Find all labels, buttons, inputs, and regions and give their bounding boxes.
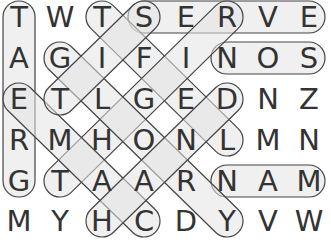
grid-cell-r2-c0[interactable]: E (0, 79, 39, 119)
grid-cell-r4-c2[interactable]: A (82, 161, 122, 201)
grid-cell-r5-c0[interactable]: M (0, 201, 39, 241)
grid-cell-r1-c2[interactable]: I (82, 38, 122, 78)
grid-cell-r0-c5[interactable]: R (207, 0, 247, 37)
grid-cell-r5-c5[interactable]: Y (207, 201, 247, 241)
grid-cell-r4-c0[interactable]: G (0, 161, 39, 201)
grid-cell-r1-c4[interactable]: I (166, 38, 206, 78)
grid-cell-r2-c2[interactable]: L (82, 79, 122, 119)
grid-cell-r1-c7[interactable]: S (289, 38, 329, 78)
grid-cell-r4-c4[interactable]: R (166, 161, 206, 201)
grid-cell-r0-c7[interactable]: E (289, 0, 329, 37)
grid-cell-r5-c6[interactable]: V (248, 201, 288, 241)
grid-cell-r0-c1[interactable]: W (40, 0, 80, 37)
grid-cell-r3-c1[interactable]: M (40, 120, 80, 160)
grid-cell-r4-c6[interactable]: A (248, 161, 288, 201)
grid-cell-r0-c6[interactable]: V (248, 0, 288, 37)
grid-cell-r0-c2[interactable]: T (82, 0, 122, 37)
grid-cell-r0-c0[interactable]: T (0, 0, 39, 37)
grid-cell-r3-c4[interactable]: N (166, 120, 206, 160)
grid-cell-r3-c5[interactable]: L (207, 120, 247, 160)
grid-cell-r0-c3[interactable]: S (124, 0, 164, 37)
grid-cell-r5-c3[interactable]: C (124, 201, 164, 241)
grid-cell-r3-c6[interactable]: M (248, 120, 288, 160)
letter-grid: TWTSERVEAGIFINOSETLGEDNZRMHONLMNGTAARNAM… (0, 0, 331, 248)
grid-cell-r5-c1[interactable]: Y (40, 201, 80, 241)
grid-cell-r2-c6[interactable]: N (248, 79, 288, 119)
word-search-board: TWTSERVEAGIFINOSETLGEDNZRMHONLMNGTAARNAM… (0, 0, 331, 248)
grid-cell-r4-c5[interactable]: N (207, 161, 247, 201)
grid-cell-r3-c0[interactable]: R (0, 120, 39, 160)
grid-cell-r1-c1[interactable]: G (40, 38, 80, 78)
grid-cell-r5-c2[interactable]: H (82, 201, 122, 241)
grid-cell-r4-c3[interactable]: A (124, 161, 164, 201)
grid-cell-r0-c4[interactable]: E (166, 0, 206, 37)
grid-cell-r2-c5[interactable]: D (207, 79, 247, 119)
grid-cell-r5-c7[interactable]: W (289, 201, 329, 241)
grid-cell-r4-c7[interactable]: M (289, 161, 329, 201)
grid-cell-r2-c7[interactable]: Z (289, 79, 329, 119)
grid-cell-r3-c7[interactable]: N (289, 120, 329, 160)
grid-cell-r3-c2[interactable]: H (82, 120, 122, 160)
grid-cell-r1-c5[interactable]: N (207, 38, 247, 78)
grid-cell-r1-c6[interactable]: O (248, 38, 288, 78)
grid-cell-r4-c1[interactable]: T (40, 161, 80, 201)
grid-cell-r2-c1[interactable]: T (40, 79, 80, 119)
grid-cell-r2-c4[interactable]: E (166, 79, 206, 119)
grid-cell-r5-c4[interactable]: D (166, 201, 206, 241)
grid-cell-r1-c0[interactable]: A (0, 38, 39, 78)
grid-cell-r1-c3[interactable]: F (124, 38, 164, 78)
grid-cell-r2-c3[interactable]: G (124, 79, 164, 119)
grid-cell-r3-c3[interactable]: O (124, 120, 164, 160)
